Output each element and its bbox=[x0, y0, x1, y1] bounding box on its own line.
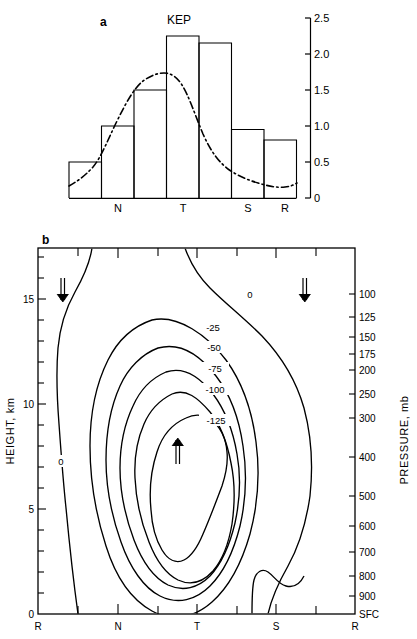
right-label-800: 800 bbox=[359, 571, 376, 582]
y-label-0-5: 0.5 bbox=[314, 156, 329, 168]
y-label-2-0: 2.0 bbox=[314, 48, 329, 60]
left-label-0: 0 bbox=[28, 609, 34, 620]
panel-b-top-ticks bbox=[78, 248, 316, 258]
bar-6 bbox=[232, 130, 265, 199]
contour-0-right bbox=[185, 248, 312, 614]
contour-25 bbox=[90, 319, 258, 617]
bar-group bbox=[69, 36, 329, 198]
panel-b-x-labels: R N T S R bbox=[34, 621, 358, 632]
left-label-5: 5 bbox=[28, 504, 34, 515]
right-label-700: 700 bbox=[359, 547, 376, 558]
panel-a-y-ticks bbox=[305, 18, 311, 198]
bar-5 bbox=[199, 43, 232, 198]
right-label-250: 250 bbox=[359, 389, 376, 400]
up-arrow-center-icon bbox=[172, 438, 184, 464]
bar-1 bbox=[69, 162, 102, 198]
bottom-label-r-left: R bbox=[34, 621, 41, 632]
bar-2 bbox=[102, 126, 135, 198]
right-label-600: 600 bbox=[359, 521, 376, 532]
panel-a-x-labels: N T S R R bbox=[114, 202, 317, 214]
panel-b-frame bbox=[38, 248, 355, 614]
panel-b-bottom-ticks bbox=[78, 604, 316, 614]
contour-label-75: -75 bbox=[208, 363, 222, 374]
y-label-2-5: 2.5 bbox=[314, 12, 329, 24]
down-arrow-left-icon bbox=[57, 278, 69, 302]
right-axis-title: PRESSURE, mb bbox=[398, 395, 410, 484]
panel-b-right-labels: 100 125 150 175 200 250 300 400 500 600 … bbox=[359, 289, 379, 620]
right-label-100: 100 bbox=[359, 289, 376, 300]
right-label-125: 125 bbox=[359, 312, 376, 323]
panel-a: a KEP 2.5 bbox=[69, 12, 329, 214]
bottom-label-t: T bbox=[194, 621, 200, 632]
contour-75 bbox=[120, 370, 239, 588]
bar-7 bbox=[264, 140, 297, 198]
contour-label-zero-left: 0 bbox=[58, 456, 63, 467]
bar-3 bbox=[134, 90, 167, 198]
contour-125 bbox=[150, 415, 227, 561]
left-label-10: 10 bbox=[23, 399, 35, 410]
y-label-1-0: 1.0 bbox=[314, 120, 329, 132]
bar-4 bbox=[167, 36, 200, 198]
bottom-label-r-right: R bbox=[351, 621, 358, 632]
figure-container: a KEP 2.5 bbox=[0, 0, 417, 639]
right-label-300: 300 bbox=[359, 413, 376, 424]
right-label-500: 500 bbox=[359, 491, 376, 502]
panel-b-letter: b bbox=[42, 233, 49, 247]
panel-b-left-ticks bbox=[38, 257, 46, 593]
contour-label-100: -100 bbox=[205, 384, 224, 395]
down-arrow-right-icon bbox=[299, 278, 311, 302]
panel-a-y-labels: 2.5 2.0 1.5 1.0 0.5 0 bbox=[314, 12, 329, 204]
smoothed-curve bbox=[69, 73, 297, 187]
bottom-label-s: S bbox=[273, 621, 280, 632]
right-label-175: 175 bbox=[359, 349, 376, 360]
right-label-sfc: SFC bbox=[359, 609, 379, 620]
panel-a-title: KEP bbox=[167, 13, 191, 27]
panel-b-right-ticks bbox=[349, 294, 355, 596]
panel-b-left-labels: 15 10 5 0 bbox=[23, 294, 35, 620]
contour-set bbox=[57, 248, 312, 617]
contour-label-125: -125 bbox=[206, 415, 225, 426]
panel-b: b bbox=[4, 233, 410, 632]
right-label-200: 200 bbox=[359, 365, 376, 376]
bottom-label-n: N bbox=[114, 621, 121, 632]
right-label-150: 150 bbox=[359, 332, 376, 343]
right-label-900: 900 bbox=[359, 591, 376, 602]
right-label-400: 400 bbox=[359, 452, 376, 463]
x-label-t: T bbox=[180, 202, 187, 214]
contour-label-0: 0 bbox=[247, 289, 252, 300]
y-label-1-5: 1.5 bbox=[314, 84, 329, 96]
contour-label-50: -50 bbox=[207, 342, 221, 353]
contour-0-lobe bbox=[252, 570, 304, 614]
panel-a-letter: a bbox=[100, 15, 107, 29]
x-label-n: N bbox=[114, 202, 122, 214]
contour-label-25: -25 bbox=[206, 322, 220, 333]
x-label-s: S bbox=[244, 202, 251, 214]
left-axis-title: HEIGHT, km bbox=[4, 397, 16, 464]
contour-0-left bbox=[57, 248, 92, 614]
x-label-r-visible: R bbox=[281, 202, 289, 214]
left-label-15: 15 bbox=[23, 294, 35, 305]
figure-svg: a KEP 2.5 bbox=[0, 0, 417, 639]
